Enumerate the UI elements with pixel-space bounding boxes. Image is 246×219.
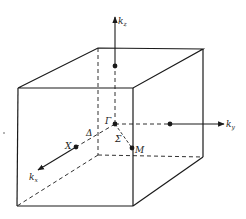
kz-subscript: z: [122, 20, 127, 27]
m-label: M: [134, 145, 145, 155]
cube-solid-edges: [17, 48, 203, 206]
delta-label: Δ: [85, 128, 93, 138]
svg-text:kx: kx: [29, 172, 38, 183]
gamma-label: Γ: [104, 116, 112, 126]
kz-axis: kz: [113, 16, 128, 124]
kz-zone-boundary-point: [113, 64, 118, 69]
x-label: X: [64, 141, 72, 151]
svg-text:kz: kz: [118, 16, 127, 27]
ky-zone-boundary-point: [168, 122, 173, 127]
ky-subscript: y: [230, 123, 235, 131]
stray-dot: [3, 132, 5, 134]
kx-axis: kx: [29, 124, 115, 183]
gamma-point: [113, 122, 118, 127]
kx-subscript: x: [34, 176, 38, 183]
cube-hidden-edges: [17, 48, 203, 206]
x-point: [74, 145, 79, 150]
sigma-label: Σ: [114, 134, 122, 144]
svg-text:ky: ky: [226, 119, 235, 131]
brillouin-zone-diagram: kz ky kx Γ X M Δ Σ: [0, 0, 246, 219]
m-point: [130, 146, 135, 151]
